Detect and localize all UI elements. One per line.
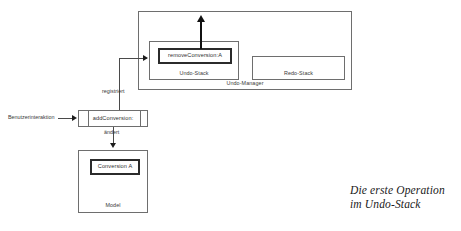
user-interaction-label: Benutzerinteraktion bbox=[8, 115, 54, 120]
add-conversion-label: addConversion: bbox=[79, 116, 147, 122]
registers-edge-vertical bbox=[119, 58, 120, 110]
changes-label: ändert bbox=[104, 130, 119, 135]
user-interaction-arrow-icon bbox=[72, 115, 77, 121]
push-arrow-head-icon bbox=[197, 15, 205, 22]
caption-line-2: im Undo-Stack bbox=[350, 197, 460, 211]
undo-stack-box: removeConversion:A Undo-Stack bbox=[149, 41, 239, 80]
registers-label: registriert bbox=[102, 89, 124, 94]
conversion-a-box: Conversion A bbox=[90, 159, 140, 175]
model-box: Conversion A Model bbox=[78, 150, 148, 213]
conversion-a-label: Conversion A bbox=[92, 164, 138, 170]
undo-stack-label: Undo-Stack bbox=[150, 71, 238, 76]
push-arrow-shaft bbox=[200, 22, 202, 49]
model-label: Model bbox=[79, 203, 147, 208]
redo-stack-box: Redo-Stack bbox=[252, 56, 345, 80]
remove-conversion-operation-box: removeConversion:A bbox=[158, 48, 232, 64]
redo-stack-label: Redo-Stack bbox=[253, 71, 344, 76]
changes-arrow-icon bbox=[110, 143, 116, 148]
figure-caption: Die erste Operation im Undo-Stack bbox=[350, 183, 460, 211]
undo-manager-box: removeConversion:A Undo-Stack Redo-Stack… bbox=[138, 11, 352, 90]
caption-line-1: Die erste Operation bbox=[350, 183, 460, 197]
diagram-canvas: removeConversion:A Undo-Stack Redo-Stack… bbox=[0, 0, 461, 231]
remove-conversion-label: removeConversion:A bbox=[160, 53, 230, 59]
add-conversion-box: addConversion: bbox=[78, 110, 148, 127]
undo-manager-label: Undo-Manager bbox=[139, 81, 351, 86]
registers-arrow-icon bbox=[143, 55, 148, 61]
